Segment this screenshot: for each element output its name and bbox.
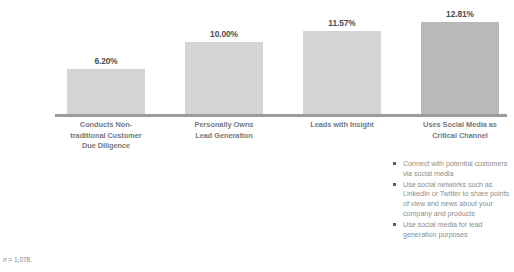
footnote: n = 1,078. bbox=[3, 256, 32, 263]
y-axis-title-line-2: from 25th-Percentile to 75th- bbox=[58, 0, 68, 8]
bullet-list-item-1-text: Connect with potential customers via soc… bbox=[403, 159, 507, 178]
category-label-1-line-2: traditional Customer bbox=[51, 131, 161, 142]
category-label-1: Conducts Non- traditional Customer Due D… bbox=[51, 120, 161, 152]
x-axis-baseline bbox=[55, 114, 507, 117]
y-axis-title-line-1: Change in Probability Going bbox=[48, 0, 58, 8]
bar-column-1: 6.20% bbox=[67, 69, 145, 116]
category-label-2: Personally Owns Lead Generation bbox=[169, 120, 279, 141]
annotation-bullet-list: Connect with potential customers via soc… bbox=[393, 159, 509, 240]
x-axis-category-labels: Conducts Non- traditional Customer Due D… bbox=[55, 120, 507, 154]
bar-column-3: 11.57% bbox=[303, 31, 381, 116]
bar-rect-1 bbox=[67, 69, 145, 116]
bar-rect-3 bbox=[303, 31, 381, 116]
bar-column-4: 12.81% bbox=[421, 22, 499, 116]
footnote-value: = 1,078. bbox=[7, 256, 32, 263]
bullet-list-item-2-text: Use social networks such as LinkedIn or … bbox=[403, 180, 509, 218]
bullet-list-item-3-text: Use social media for lead generation pur… bbox=[403, 220, 482, 239]
bar-value-label-3: 11.57% bbox=[303, 18, 381, 31]
category-label-3: Leads with Insight bbox=[287, 120, 397, 131]
y-axis-title: Change in Probability Going from 25th-Pe… bbox=[48, 0, 94, 8]
bar-value-label-2: 10.00% bbox=[185, 29, 263, 42]
category-label-4-line-1: Uses Social Media as bbox=[405, 120, 514, 131]
category-label-4: Uses Social Media as Critical Channel bbox=[405, 120, 514, 141]
bullet-list-item-2: Use social networks such as LinkedIn or … bbox=[393, 180, 509, 219]
category-label-1-line-3: Due Diligence bbox=[51, 141, 161, 152]
bullet-list-item-3: Use social media for lead generation pur… bbox=[393, 220, 509, 240]
bar-chart-plot-area: 6.20% 10.00% 11.57% 12.81% bbox=[55, 14, 507, 116]
square-bullet-icon bbox=[393, 183, 396, 186]
category-label-2-line-2: Lead Generation bbox=[169, 131, 279, 142]
bullet-list-item-1: Connect with potential customers via soc… bbox=[393, 159, 509, 179]
bar-value-label-4: 12.81% bbox=[421, 9, 499, 22]
category-label-4-line-2: Critical Channel bbox=[405, 131, 514, 142]
category-label-1-line-1: Conducts Non- bbox=[51, 120, 161, 131]
bar-column-2: 10.00% bbox=[185, 42, 263, 116]
category-label-3-line-1: Leads with Insight bbox=[287, 120, 397, 131]
square-bullet-icon bbox=[393, 162, 396, 165]
bar-value-label-1: 6.20% bbox=[67, 56, 145, 69]
bar-rect-4 bbox=[421, 22, 499, 116]
y-axis-title-line-3: Percentile Performer bbox=[67, 0, 77, 8]
bar-rect-2 bbox=[185, 42, 263, 116]
category-label-2-line-1: Personally Owns bbox=[169, 120, 279, 131]
square-bullet-icon bbox=[393, 223, 396, 226]
